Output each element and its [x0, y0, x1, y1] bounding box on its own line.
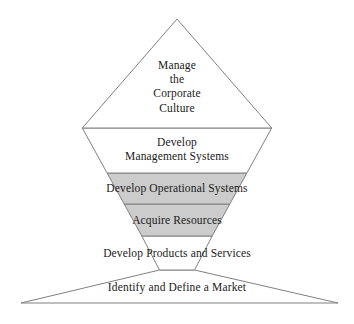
- pyramid-graphic: [0, 0, 354, 324]
- pyramid-tier-2-shape[interactable]: [82, 128, 271, 173]
- pyramid-tier-1-shape[interactable]: [82, 19, 271, 128]
- pyramid-tier-6-shape[interactable]: [21, 270, 338, 303]
- pyramid-diagram: Manage the Corporate Culture Develop Man…: [0, 0, 354, 324]
- pyramid-tier-5-shape[interactable]: [142, 236, 212, 270]
- pyramid-tier-3-shape[interactable]: [107, 173, 247, 204]
- pyramid-tier-4-shape[interactable]: [124, 204, 230, 236]
